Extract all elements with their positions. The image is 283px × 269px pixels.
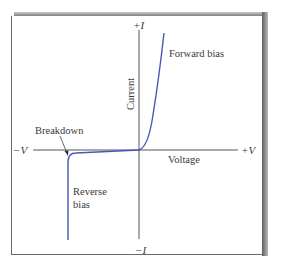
forward-bias-curve xyxy=(139,33,164,150)
reverse-bias-label-line1: Reverse xyxy=(73,186,107,197)
forward-bias-label: Forward bias xyxy=(169,48,224,59)
voltage-axis-title: Voltage xyxy=(168,154,200,165)
reverse-bias-label-line2: bias xyxy=(73,199,90,210)
x-negative-label: −V xyxy=(13,144,28,156)
breakdown-arrowhead-icon xyxy=(65,151,69,157)
x-positive-label: +V xyxy=(241,144,256,156)
iv-curve-plot: +I −I −V +V Current Voltage Forward bias… xyxy=(0,0,283,269)
breakdown-label: Breakdown xyxy=(35,125,84,136)
y-positive-label: +I xyxy=(133,19,145,31)
y-negative-label: −I xyxy=(135,244,147,256)
current-axis-title: Current xyxy=(125,78,136,110)
